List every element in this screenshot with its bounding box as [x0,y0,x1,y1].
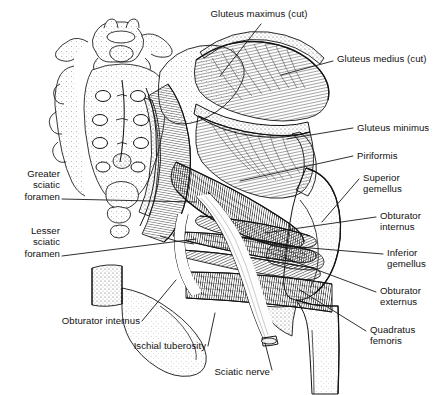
label-gluteus-medius-cut: Gluteus medius (cut) [337,53,442,64]
label-lesser-sciatic-foramen: Lesser sciatic foramen [2,225,60,259]
label-ischial-tuberosity: Ischial tuberosity [118,340,206,351]
label-obturator-internus-left: Obturator internus [48,315,140,326]
label-quadratus-femoris: Quadratus femoris [370,324,442,347]
label-greater-sciatic-foramen: Greater sciatic foramen [2,168,60,202]
label-gluteus-minimus: Gluteus minimus [357,122,442,133]
label-obturator-externus: Obturator externus [380,285,442,308]
label-inferior-gemellus: Inferior gemellus [387,247,442,270]
label-sciatic-nerve: Sciatic nerve [198,366,270,377]
label-piriformis: Piriformis [357,150,417,161]
label-superior-gemellus: Superior gemellus [363,172,442,195]
anatomy-figure: Gluteus maximus (cut)Gluteus medius (cut… [0,0,442,395]
label-obturator-internus-right: Obturator internus [380,210,442,233]
label-gluteus-maximus-cut: Gluteus maximus (cut) [183,8,335,19]
